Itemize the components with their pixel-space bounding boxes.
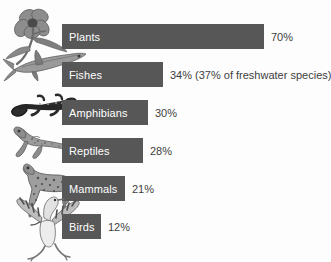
chart-row-reptiles: Reptiles 28% [0,132,329,170]
bar-fishes[interactable]: Fishes [62,62,163,87]
bar-plants[interactable]: Plants [62,24,264,49]
bar-value-mammals: 21% [132,176,154,201]
chart-row-plants: Plants 70% [0,18,329,56]
bar-label-birds: Birds [62,221,95,233]
bar-value-birds: 12% [108,214,130,239]
bar-reptiles[interactable]: Reptiles [62,138,143,163]
bar-label-fishes: Fishes [62,69,102,81]
bar-label-reptiles: Reptiles [62,145,110,157]
chart-row-amphibians: Amphibians 30% [0,94,329,132]
chart-row-birds: Birds 12% [0,208,329,246]
bar-label-mammals: Mammals [62,183,117,195]
bar-mammals[interactable]: Mammals [62,176,125,201]
chart-row-mammals: Mammals 21% [0,170,329,208]
bar-value-plants: 70% [271,24,293,49]
bar-value-amphibians: 30% [155,100,177,125]
bar-value-reptiles: 28% [150,138,172,163]
bar-amphibians[interactable]: Amphibians [62,100,148,125]
bar-label-amphibians: Amphibians [62,107,127,119]
bar-birds[interactable]: Birds [62,214,101,239]
bar-value-fishes: 34% (37% of freshwater species) [170,62,331,87]
chart-row-fishes: Fishes 34% (37% of freshwater species) [0,56,329,94]
bar-label-plants: Plants [62,31,100,43]
